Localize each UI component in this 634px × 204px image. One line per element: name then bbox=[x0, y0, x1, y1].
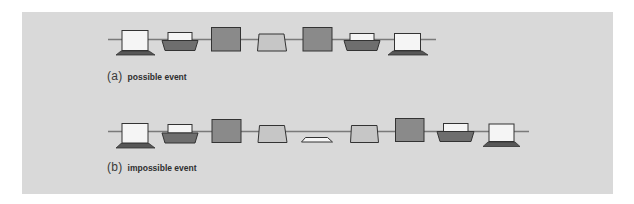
caption-a: (a) possible event bbox=[107, 69, 187, 83]
square-node-icon bbox=[212, 120, 241, 143]
trapezoid-node-icon bbox=[258, 34, 287, 51]
square-node-icon bbox=[396, 119, 425, 142]
row-b-impossible-event bbox=[108, 119, 529, 149]
square-node-icon bbox=[212, 28, 241, 52]
caption-text: impossible event bbox=[128, 163, 197, 173]
laptop-icon bbox=[388, 34, 428, 56]
caption-b: (b) impossible event bbox=[107, 160, 197, 174]
printer-icon bbox=[162, 33, 198, 51]
caption-text: possible event bbox=[128, 72, 187, 82]
laptop-icon bbox=[483, 124, 520, 147]
caption-tag: (a) bbox=[107, 69, 123, 83]
trapezoid-node-icon bbox=[258, 126, 287, 143]
printer-icon bbox=[162, 125, 198, 144]
trapezoid-node-icon bbox=[351, 126, 379, 143]
square-node-icon bbox=[303, 28, 332, 52]
printer-icon bbox=[344, 34, 380, 51]
caption-tag: (b) bbox=[107, 160, 123, 174]
printer-icon bbox=[437, 124, 474, 142]
event-diagram bbox=[0, 0, 634, 204]
laptop-icon bbox=[116, 31, 155, 56]
laptop-icon bbox=[116, 124, 155, 149]
flat-trapezoid-node-icon bbox=[302, 138, 333, 143]
row-a-possible-event bbox=[108, 28, 436, 56]
